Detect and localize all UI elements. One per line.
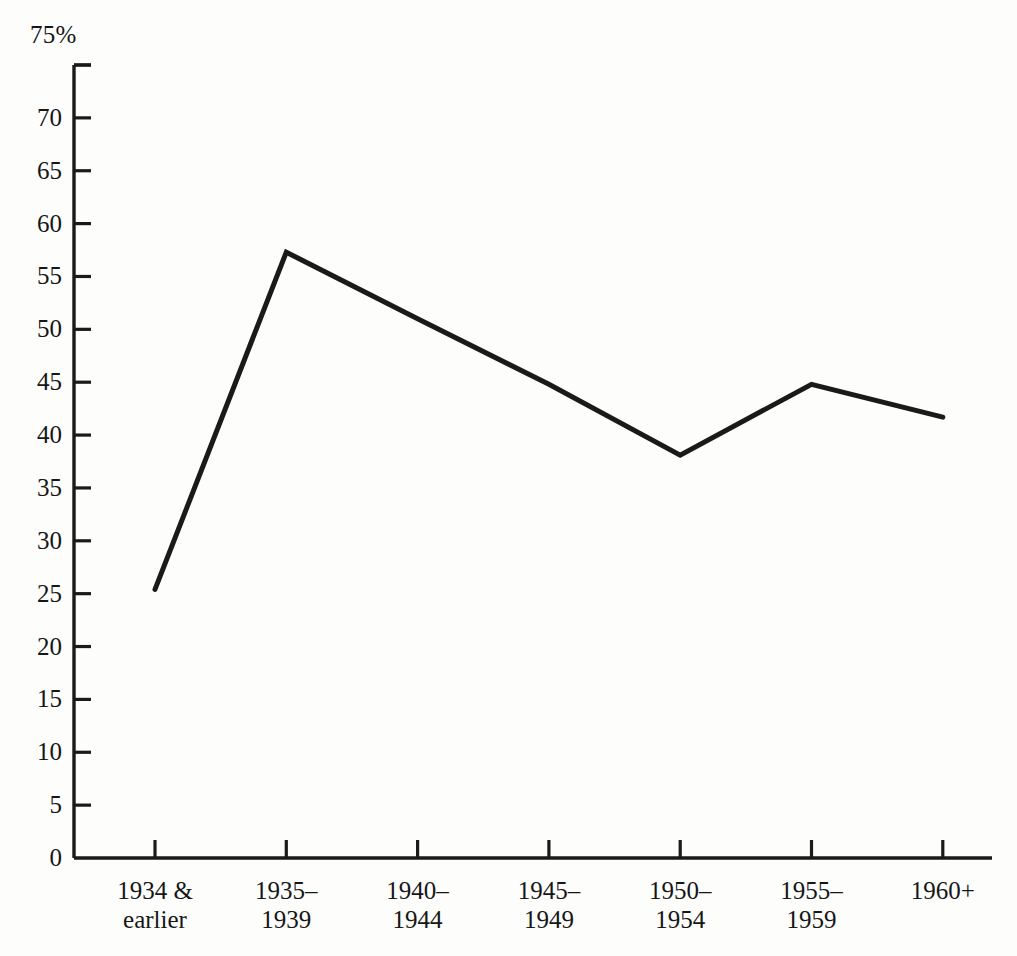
y-tick-label-65: 65 [37, 157, 62, 185]
x-tick-label-line: 1934 & [117, 876, 193, 905]
x-tick-label-line: 1950– [649, 876, 712, 905]
x-tick-label-line: 1955– [780, 876, 843, 905]
y-tick-label-15: 15 [37, 685, 62, 713]
x-tick-label-line: earlier [117, 905, 193, 934]
y-tick-label-5: 5 [50, 791, 63, 819]
x-tick-label-line: 1945– [518, 876, 581, 905]
axes [74, 65, 992, 858]
series-line-percentage [155, 252, 943, 589]
y-tick-label-50: 50 [37, 315, 62, 343]
x-tick-label-line: 1944 [386, 905, 449, 934]
y-tick-label-45: 45 [37, 368, 62, 396]
y-tick-label-10: 10 [37, 738, 62, 766]
y-tick-label-25: 25 [37, 580, 62, 608]
y-tick-label-20: 20 [37, 633, 62, 661]
x-tick-label-line: 1935– [255, 876, 318, 905]
y-tick-label-0: 0 [50, 844, 63, 872]
x-tick-label-line: 1940– [386, 876, 449, 905]
plot-area [0, 0, 1017, 956]
y-tick-label-35: 35 [37, 474, 62, 502]
y-tick-label-40: 40 [37, 421, 62, 449]
x-tick-label-1: 1935–1939 [255, 876, 318, 934]
y-tick-label-70: 70 [37, 104, 62, 132]
x-tick-label-4: 1950–1954 [649, 876, 712, 934]
x-tick-label-line: 1949 [518, 905, 581, 934]
x-tick-label-3: 1945–1949 [518, 876, 581, 934]
y-tick-label-30: 30 [37, 527, 62, 555]
x-tick-label-0: 1934 &earlier [117, 876, 193, 934]
x-tick-label-2: 1940–1944 [386, 876, 449, 934]
x-tick-label-6: 1960+ [911, 876, 975, 905]
x-tick-label-5: 1955–1959 [780, 876, 843, 934]
chart-figure: 75% 0510152025303540455055606570 1934 &e… [0, 0, 1017, 956]
x-tick-label-line: 1960+ [911, 876, 975, 905]
x-tick-label-line: 1959 [780, 905, 843, 934]
data-series-line [155, 252, 943, 589]
y-tick-label-55: 55 [37, 262, 62, 290]
x-tick-label-line: 1939 [255, 905, 318, 934]
y-tick-label-60: 60 [37, 210, 62, 238]
x-tick-label-line: 1954 [649, 905, 712, 934]
